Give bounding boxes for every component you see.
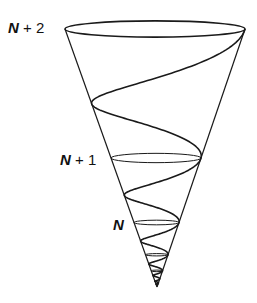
label-n-plus-1: N + 1 [60,152,96,167]
label-n: N [113,217,124,232]
level-ellipse-N [134,220,179,225]
label-n-plus-2: N + 2 [8,20,44,35]
level-ellipse-Nplus1 [111,153,201,162]
spiral-path [92,29,245,285]
level-ellipse-Nminus2 [151,270,162,272]
cone-spiral-diagram [0,0,257,303]
level-ellipse-Nplus2 [65,21,245,37]
conical-spiral-curve [92,29,245,285]
level-ellipses [65,21,245,272]
level-ellipse-Nminus1 [146,254,169,256]
